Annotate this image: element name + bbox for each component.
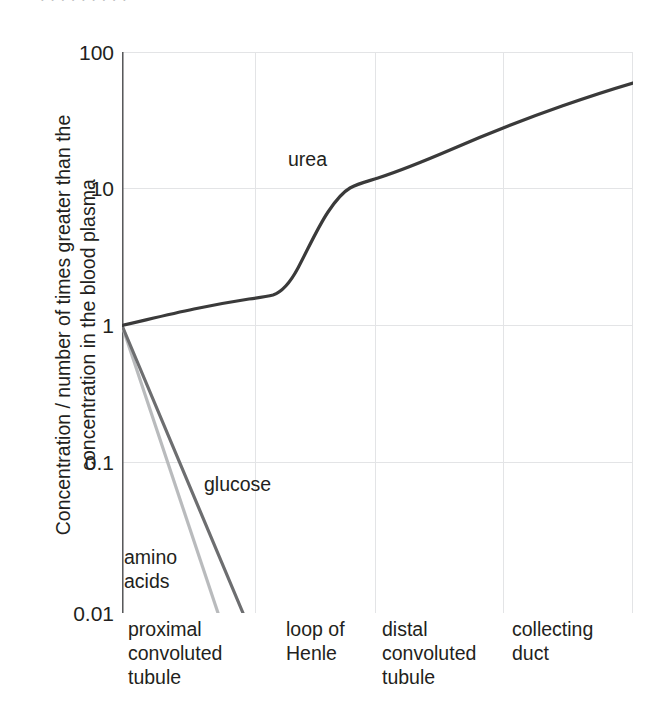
y-tick-10: 10 xyxy=(91,178,114,199)
vertical-gridlines xyxy=(256,52,633,613)
x-category-proximal-convoluted-tubule: proximal convoluted tubule xyxy=(128,617,222,689)
x-category-distal-convoluted-tubule: distal convoluted tubule xyxy=(382,617,476,689)
x-category-collecting-duct: collecting duct xyxy=(512,617,593,665)
y-tick-1: 1 xyxy=(102,315,114,336)
y-tick-100: 100 xyxy=(79,42,114,63)
series-label-urea: urea xyxy=(288,147,327,171)
y-tick-0.1: 0.1 xyxy=(85,452,114,473)
series-label-glucose: glucose xyxy=(204,472,271,496)
series-line-urea xyxy=(122,83,633,326)
x-category-loop-of-henle: loop of Henle xyxy=(286,617,345,665)
y-axis-tick-labels: 100 10 1 0.1 0.01 xyxy=(0,0,114,712)
series-label-amino-acids: amino acids xyxy=(124,545,177,593)
y-axis-spine xyxy=(122,52,123,613)
plot-area: urea glucose amino acids xyxy=(122,52,633,613)
horizontal-gridlines xyxy=(122,53,633,463)
kidney-concentration-log-chart: Concentration / number of times greater … xyxy=(0,0,659,712)
x-axis-category-labels: proximal convoluted tubule loop of Henle… xyxy=(0,617,659,712)
